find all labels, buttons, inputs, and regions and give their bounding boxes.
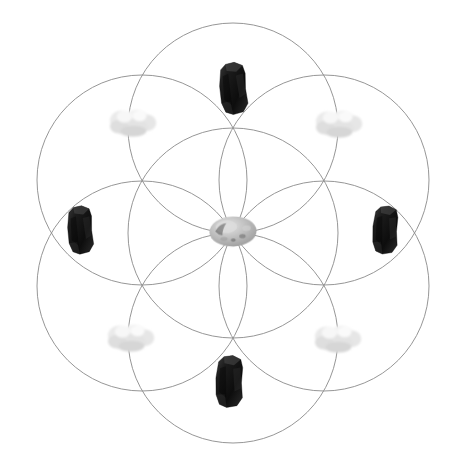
- stone-top[interactable]: [212, 59, 254, 117]
- stone-left[interactable]: [62, 203, 99, 257]
- stone-bottom[interactable]: [209, 353, 249, 409]
- stone-center[interactable]: [207, 214, 258, 249]
- stone-lower-left[interactable]: [99, 318, 161, 356]
- stone-right[interactable]: [367, 203, 404, 257]
- stone-upper-left[interactable]: [101, 103, 163, 141]
- crystal-grid-image: [0, 0, 475, 462]
- stone-upper-right[interactable]: [307, 104, 369, 142]
- stone-lower-right[interactable]: [306, 319, 368, 357]
